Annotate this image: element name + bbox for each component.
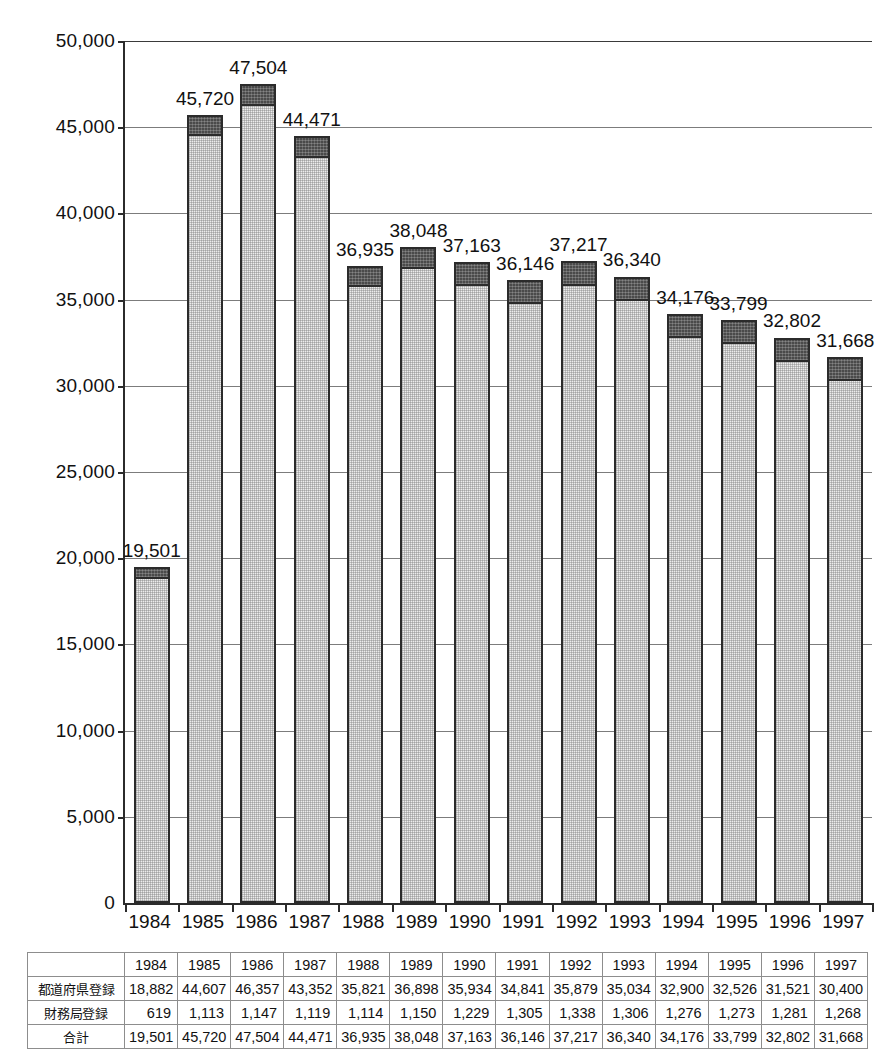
stacked-bar[interactable] xyxy=(347,266,383,903)
bar-segment-prefectural[interactable] xyxy=(723,340,755,901)
bar-group[interactable] xyxy=(134,567,170,903)
bar-group[interactable] xyxy=(561,261,597,903)
bar-segment-finance-bureau[interactable] xyxy=(296,138,328,157)
bar-segment-finance-bureau[interactable] xyxy=(616,279,648,302)
bar-group[interactable] xyxy=(347,266,383,903)
stacked-bar[interactable] xyxy=(614,277,650,904)
stacked-bar[interactable] xyxy=(187,115,223,903)
bar-group[interactable] xyxy=(400,247,436,903)
gridline xyxy=(125,731,872,732)
y-axis-tick-label: 25,000 xyxy=(19,462,115,481)
stacked-bar[interactable] xyxy=(721,320,757,903)
bar-segment-finance-bureau[interactable] xyxy=(829,359,861,381)
table-cell: 43,352 xyxy=(284,977,337,1001)
table-cell: 36,935 xyxy=(337,1025,390,1049)
bar-segment-finance-bureau[interactable] xyxy=(509,282,541,304)
bar-value-label: 36,935 xyxy=(330,240,400,259)
y-axis-tick-label: 15,000 xyxy=(19,634,115,653)
bar-segment-finance-bureau[interactable] xyxy=(136,569,168,580)
y-axis-tick-label: 10,000 xyxy=(19,721,115,740)
x-axis-tick xyxy=(552,903,554,912)
table-cell: 35,879 xyxy=(549,977,602,1001)
gridline xyxy=(125,817,872,818)
bar-segment-prefectural[interactable] xyxy=(616,297,648,901)
x-axis-tick-label: 1990 xyxy=(443,912,496,931)
stacked-bar[interactable] xyxy=(294,136,330,903)
stacked-bar[interactable] xyxy=(774,338,810,904)
bar-segment-prefectural[interactable] xyxy=(189,132,221,901)
table-column-header: 1986 xyxy=(231,953,284,977)
y-axis-tick-label: 50,000 xyxy=(19,31,115,50)
stacked-bar[interactable] xyxy=(507,280,543,903)
table-column-header: 1990 xyxy=(443,953,496,977)
stacked-bar[interactable] xyxy=(667,314,703,903)
x-axis-tick xyxy=(605,903,607,912)
bar-segment-prefectural[interactable] xyxy=(669,334,701,901)
bar-group[interactable] xyxy=(507,280,543,903)
chart-page: 05,00010,00015,00020,00025,00030,00035,0… xyxy=(0,0,895,1054)
table-cell: 30,400 xyxy=(814,977,867,1001)
y-axis-tick-label: 40,000 xyxy=(19,203,115,222)
bar-segment-prefectural[interactable] xyxy=(136,575,168,901)
table-column-header: 1987 xyxy=(284,953,337,977)
x-axis-tick-label: 1985 xyxy=(176,912,229,931)
y-axis-tick-label: 30,000 xyxy=(19,376,115,395)
x-axis-tick-label: 1986 xyxy=(230,912,283,931)
bar-segment-finance-bureau[interactable] xyxy=(189,117,221,136)
bar-segment-finance-bureau[interactable] xyxy=(402,249,434,269)
bar-segment-finance-bureau[interactable] xyxy=(776,340,808,362)
table-corner-cell xyxy=(28,953,125,977)
table-cell: 37,163 xyxy=(443,1025,496,1049)
table-cell: 1,150 xyxy=(390,1001,443,1025)
y-axis-tick-label: 5,000 xyxy=(19,807,115,826)
table-cell: 47,504 xyxy=(231,1025,284,1049)
bar-segment-finance-bureau[interactable] xyxy=(456,264,488,285)
bar-segment-prefectural[interactable] xyxy=(509,300,541,901)
bar-group[interactable] xyxy=(614,277,650,904)
stacked-bar[interactable] xyxy=(240,84,276,903)
table-cell: 35,821 xyxy=(337,977,390,1001)
bar-segment-prefectural[interactable] xyxy=(242,102,274,901)
x-axis-tick-label: 1993 xyxy=(603,912,656,931)
bar-group[interactable] xyxy=(187,115,223,903)
bar-segment-prefectural[interactable] xyxy=(776,358,808,901)
table-cell: 34,176 xyxy=(655,1025,708,1049)
stacked-bar[interactable] xyxy=(134,567,170,903)
table-cell: 19,501 xyxy=(125,1025,178,1049)
bar-group[interactable] xyxy=(294,136,330,903)
x-axis-tick xyxy=(445,903,447,912)
stacked-bar[interactable] xyxy=(827,357,863,903)
bar-segment-finance-bureau[interactable] xyxy=(669,316,701,338)
bar-group[interactable] xyxy=(454,262,490,903)
bar-segment-finance-bureau[interactable] xyxy=(242,86,274,106)
bar-segment-prefectural[interactable] xyxy=(829,377,861,901)
bar-group[interactable] xyxy=(774,338,810,904)
table-cell: 1,268 xyxy=(814,1001,867,1025)
table-column-header: 1984 xyxy=(125,953,178,977)
bar-group[interactable] xyxy=(240,84,276,903)
table-cell: 32,802 xyxy=(761,1025,814,1049)
bar-segment-prefectural[interactable] xyxy=(563,282,595,901)
data-table: 1984198519861987198819891990199119921993… xyxy=(27,952,868,1049)
y-axis-tick xyxy=(118,644,125,646)
bar-group[interactable] xyxy=(827,357,863,903)
stacked-bar[interactable] xyxy=(454,262,490,903)
bar-segment-prefectural[interactable] xyxy=(349,283,381,901)
table-row-header: 合計 xyxy=(28,1025,125,1049)
bar-segment-finance-bureau[interactable] xyxy=(349,268,381,287)
bar-group[interactable] xyxy=(667,314,703,903)
y-axis-tick-label: 45,000 xyxy=(19,117,115,136)
table-column-header: 1992 xyxy=(549,953,602,977)
bar-segment-prefectural[interactable] xyxy=(402,265,434,901)
y-axis-tick xyxy=(118,213,125,215)
table-row: 財務局登録6191,1131,1471,1191,1141,1501,2291,… xyxy=(28,1001,868,1025)
table-column-header: 1989 xyxy=(390,953,443,977)
bar-segment-prefectural[interactable] xyxy=(296,154,328,901)
bar-group[interactable] xyxy=(721,320,757,903)
bar-segment-prefectural[interactable] xyxy=(456,282,488,902)
stacked-bar[interactable] xyxy=(561,261,597,903)
bar-segment-finance-bureau[interactable] xyxy=(563,263,595,286)
stacked-bar[interactable] xyxy=(400,247,436,903)
y-axis-tick xyxy=(118,41,125,43)
bar-segment-finance-bureau[interactable] xyxy=(723,322,755,344)
